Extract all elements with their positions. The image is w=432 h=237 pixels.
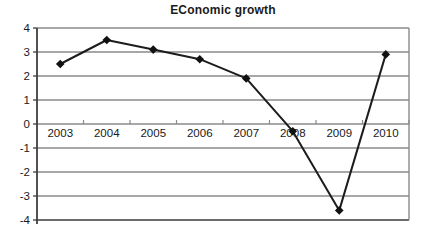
- data-point-marker: [56, 60, 65, 69]
- plot-area: 43210-1-2-3-4200320042005200620072008200…: [0, 0, 432, 237]
- x-axis-label: 2010: [373, 127, 399, 139]
- x-axis-label: 2003: [47, 127, 73, 139]
- data-point-marker: [335, 206, 344, 215]
- y-axis-label: 4: [24, 22, 31, 34]
- economic-growth-chart: EConomic growth 43210-1-2-3-420032004200…: [0, 0, 432, 237]
- series-line: [60, 40, 386, 210]
- x-axis-label: 2005: [140, 127, 166, 139]
- y-axis-label: -4: [20, 214, 31, 226]
- y-axis-label: -3: [20, 190, 30, 202]
- x-axis-label: 2004: [94, 127, 120, 139]
- y-axis-label: 3: [24, 46, 30, 58]
- y-axis-label: 1: [24, 94, 30, 106]
- data-point-marker: [195, 55, 204, 64]
- data-point-marker: [102, 36, 111, 45]
- y-axis-label: 0: [24, 118, 30, 130]
- y-axis-label: -2: [20, 166, 30, 178]
- y-axis-label: -1: [20, 142, 30, 154]
- x-axis-label: 2007: [233, 127, 259, 139]
- x-axis-label: 2009: [326, 127, 352, 139]
- y-axis-label: 2: [24, 70, 30, 82]
- x-axis-label: 2006: [187, 127, 213, 139]
